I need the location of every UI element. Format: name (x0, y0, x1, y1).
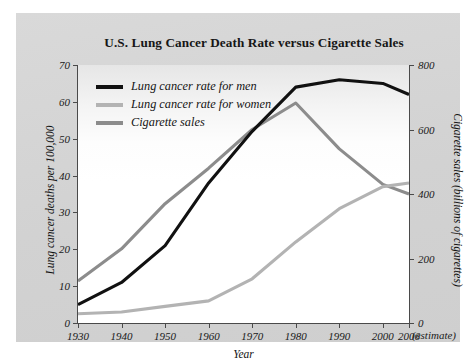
x-axis-tick (383, 323, 384, 328)
y-axis-left-tick (73, 249, 78, 250)
x-axis-tick (252, 323, 253, 328)
x-axis-tick-label: 1990 (328, 330, 350, 342)
legend-item: Lung cancer rate for men (96, 79, 271, 94)
x-axis-tick (78, 323, 79, 328)
y-axis-left-tick (73, 176, 78, 177)
x-axis-tick-label: 2000 (372, 330, 394, 342)
x-axis-tick (165, 323, 166, 328)
x-axis-tick (209, 323, 210, 328)
y-axis-left-tick (73, 65, 78, 66)
chart-title: U.S. Lung Cancer Death Rate versus Cigar… (16, 35, 476, 51)
x-axis-tick-label: 1980 (285, 330, 307, 342)
x-axis-title: Year (78, 348, 409, 360)
y-axis-left-title: Lung cancer deaths per 100,000 (44, 80, 56, 320)
y-axis-left-tick (73, 139, 78, 140)
y-axis-left-tick (73, 212, 78, 213)
y-axis-right-tick (409, 130, 414, 131)
x-axis-line (77, 323, 410, 324)
legend-item-label: Cigarette sales (131, 115, 205, 130)
legend-item-label: Lung cancer rate for men (131, 79, 257, 94)
x-axis-tick-label: 1950 (154, 330, 176, 342)
legend-item-label: Lung cancer rate for women (131, 97, 271, 112)
y-axis-left-line (77, 65, 78, 324)
legend-swatch-icon (96, 103, 123, 107)
legend-item: Cigarette sales (96, 115, 271, 130)
x-axis-tick-label: 1930 (67, 330, 89, 342)
series-line-women (78, 183, 409, 314)
x-axis-tick-label: 1940 (111, 330, 133, 342)
chart-legend: Lung cancer rate for menLung cancer rate… (96, 79, 271, 130)
x-axis-tick (296, 323, 297, 328)
x-axis-tick-label: 1960 (198, 330, 220, 342)
y-axis-right-title: Cigarette sales (billions of cigarettes) (452, 70, 464, 330)
y-axis-left-tick (73, 286, 78, 287)
legend-item: Lung cancer rate for women (96, 97, 271, 112)
y-axis-left-tick (73, 102, 78, 103)
x-axis-tick (122, 323, 123, 328)
legend-swatch-icon (96, 85, 123, 89)
x-axis-tick (409, 323, 410, 328)
y-axis-left-tick-label: 70 (30, 59, 70, 71)
y-axis-right-tick (409, 65, 414, 66)
x-axis-tick (339, 323, 340, 328)
chart-plate: U.S. Lung Cancer Death Rate versus Cigar… (16, 13, 460, 342)
legend-swatch-icon (96, 121, 123, 125)
x-axis-estimate-note: (estimate) (412, 329, 456, 341)
x-axis-tick-label: 1970 (241, 330, 263, 342)
y-axis-right-tick (409, 259, 414, 260)
y-axis-right-tick (409, 194, 414, 195)
